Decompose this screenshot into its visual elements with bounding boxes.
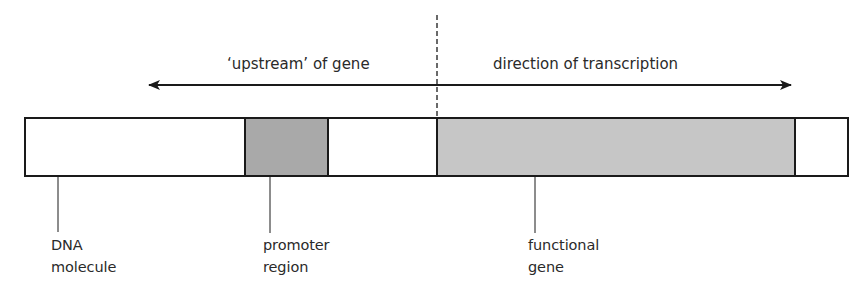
gene-diagram-graphics bbox=[0, 0, 861, 300]
functional-gene-label: functional gene bbox=[528, 234, 599, 278]
dna-molecule-label-line2: molecule bbox=[51, 256, 116, 278]
dna-segment-right bbox=[795, 118, 848, 176]
dna-molecule-label-line1: DNA bbox=[51, 234, 116, 256]
promoter-region-label: promoter region bbox=[263, 234, 329, 278]
functional-gene-label-line2: gene bbox=[528, 256, 599, 278]
dna-segment-left bbox=[25, 118, 245, 176]
dna-segment-spacer bbox=[328, 118, 437, 176]
functional-gene-label-line1: functional bbox=[528, 234, 599, 256]
upstream-label: ‘upstream’ of gene bbox=[227, 55, 370, 73]
promoter-region-label-line2: region bbox=[263, 256, 329, 278]
promoter-region-label-line1: promoter bbox=[263, 234, 329, 256]
functional-gene-box bbox=[437, 118, 795, 176]
direction-of-transcription-label: direction of transcription bbox=[493, 55, 678, 73]
dna-molecule-label: DNA molecule bbox=[51, 234, 116, 278]
promoter-region-box bbox=[245, 118, 328, 176]
